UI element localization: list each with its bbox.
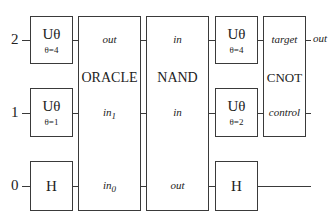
wire-q2-in	[22, 40, 30, 41]
nand-port-in-q2: in	[147, 33, 208, 45]
wire-q0-in	[22, 186, 30, 187]
gate-param: θ=4	[31, 45, 72, 55]
wire-q1-c3	[208, 113, 215, 114]
hadamard-gate-q0-a[interactable]: H	[30, 161, 73, 211]
u-theta-gate-q2-b[interactable]: Uθ θ=4	[215, 16, 258, 64]
wire-q2-c3	[208, 40, 215, 41]
gate-param: θ=4	[216, 45, 257, 55]
wire-q1-in	[22, 113, 30, 114]
qubit-label-2: 2	[11, 31, 19, 48]
cnot-output-label: out	[313, 32, 327, 44]
gate-name: Uθ	[31, 26, 72, 43]
wire-q0-c3	[208, 186, 215, 187]
nand-port-in-q1: in	[147, 106, 208, 118]
oracle-port-in1: in1	[79, 106, 140, 121]
gate-name: Uθ	[216, 26, 257, 43]
nand-gate[interactable]: in NAND in out	[146, 16, 209, 211]
nand-port-out-q0: out	[147, 179, 208, 191]
gate-name: H	[216, 178, 257, 195]
cnot-label: CNOT	[264, 70, 305, 86]
u-theta-gate-q1-b[interactable]: Uθ θ=2	[215, 88, 258, 137]
cnot-gate[interactable]: target CNOT control	[263, 16, 306, 137]
qubit-label-1: 1	[11, 104, 19, 121]
gate-param: θ=1	[31, 117, 72, 127]
cnot-port-target: target	[264, 33, 305, 45]
gate-name: H	[31, 178, 72, 195]
cnot-port-control: control	[264, 106, 305, 118]
u-theta-gate-q2-a[interactable]: Uθ θ=4	[30, 16, 73, 64]
wire-q0-out	[257, 186, 311, 187]
u-theta-gate-q1-a[interactable]: Uθ θ=1	[30, 88, 73, 137]
qubit-label-0: 0	[11, 177, 19, 194]
oracle-gate[interactable]: out ORACLE in1 in0	[78, 16, 141, 211]
oracle-label: ORACLE	[79, 70, 140, 86]
oracle-port-out: out	[79, 33, 140, 45]
nand-label: NAND	[147, 70, 208, 86]
gate-param: θ=2	[216, 117, 257, 127]
gate-name: Uθ	[31, 98, 72, 115]
oracle-port-in0: in0	[79, 179, 140, 194]
gate-name: Uθ	[216, 98, 257, 115]
hadamard-gate-q0-b[interactable]: H	[215, 161, 258, 211]
